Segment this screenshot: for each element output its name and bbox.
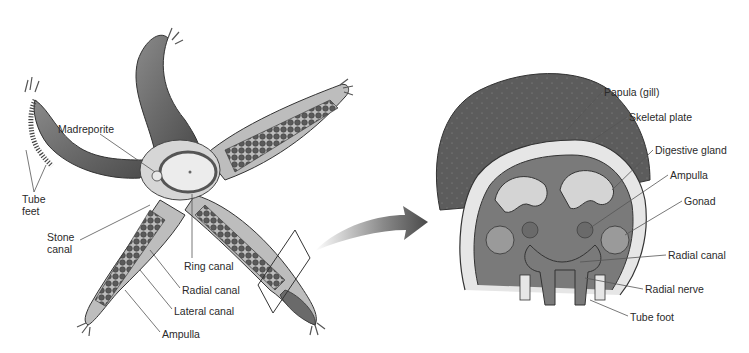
label-tube-foot: Tube foot bbox=[630, 311, 674, 323]
label-ampulla-section: Ampulla bbox=[670, 169, 708, 181]
transition-arrow bbox=[315, 206, 428, 251]
label-gonad: Gonad bbox=[684, 195, 716, 207]
label-stone-canal: Stone canal bbox=[47, 231, 74, 255]
madreporite-shape bbox=[152, 171, 162, 181]
label-ampulla: Ampulla bbox=[162, 328, 200, 340]
arm-upper-left bbox=[34, 100, 148, 178]
label-papula: Papula (gill) bbox=[604, 86, 659, 98]
arm-cross-section-illustration bbox=[436, 74, 650, 305]
label-radial-nerve: Radial nerve bbox=[645, 283, 704, 295]
gonad-right bbox=[601, 226, 629, 254]
label-tube-feet: Tube feet bbox=[22, 193, 46, 217]
label-radial-canal: Radial canal bbox=[182, 284, 240, 296]
gonad-left bbox=[486, 226, 514, 254]
label-madreporite: Madreporite bbox=[58, 123, 114, 135]
label-radial-canal-section: Radial canal bbox=[668, 249, 726, 261]
diagram-canvas: Madreporite Tube feet Stone canal Ring c… bbox=[0, 0, 749, 353]
arm-top bbox=[136, 35, 200, 152]
label-digestive-gland: Digestive gland bbox=[655, 144, 727, 156]
label-lateral-canal: Lateral canal bbox=[174, 305, 234, 317]
diagram-artwork bbox=[0, 0, 749, 353]
ring-canal-shape bbox=[160, 152, 216, 192]
label-skeletal-plate: Skeletal plate bbox=[629, 111, 692, 123]
label-ring-canal: Ring canal bbox=[184, 260, 234, 272]
